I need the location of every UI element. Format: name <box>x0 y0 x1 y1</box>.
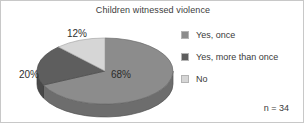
legend-label-yes-once: Yes, once <box>196 30 235 40</box>
pie-label-no: 12% <box>67 28 87 39</box>
legend-swatch-yes-more-than-once <box>181 53 189 61</box>
pie-label-yes-more-than-once: 20% <box>19 69 39 80</box>
legend-item-yes-more-than-once: Yes, more than once <box>181 51 304 62</box>
legend-label-yes-more-than-once: Yes, more than once <box>196 52 278 62</box>
pie-chart-figure: Children witnessed violence 12% 20% 68% … <box>0 0 304 123</box>
legend-item-yes-once: Yes, once <box>181 29 304 40</box>
pie-graphic <box>19 21 191 121</box>
legend-label-no: No <box>196 74 208 84</box>
legend-item-no: No <box>181 73 304 84</box>
legend-swatch-yes-once <box>181 31 189 39</box>
pie-plot-area: 12% 20% 68% <box>19 21 191 121</box>
sample-size-note: n = 34 <box>264 103 289 113</box>
chart-title: Children witnessed violence <box>1 5 304 15</box>
chart-legend: Yes, once Yes, more than once No <box>181 29 304 95</box>
legend-swatch-no <box>181 75 189 83</box>
pie-label-yes-once: 68% <box>111 69 131 80</box>
